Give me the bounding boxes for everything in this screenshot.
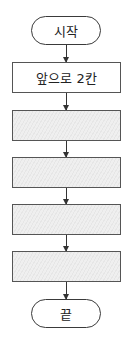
- arrow-down-icon: [66, 45, 67, 62]
- end-terminal: 끝: [31, 299, 101, 328]
- arrow-down-icon: [66, 141, 67, 157]
- arrow-down-icon: [66, 282, 67, 299]
- start-terminal: 시작: [31, 16, 101, 45]
- arrow-down-icon: [66, 93, 67, 110]
- arrow-down-icon: [66, 235, 67, 251]
- end-label: 끝: [60, 304, 72, 323]
- step-box-3-blank: [12, 157, 121, 188]
- step-box-5-blank: [12, 251, 121, 282]
- arrow-down-icon: [66, 188, 67, 204]
- start-label: 시작: [54, 21, 78, 40]
- step-label: 앞으로 2칸: [36, 68, 96, 87]
- step-box-2-blank: [12, 110, 121, 141]
- step-box-4-blank: [12, 204, 121, 235]
- step-box-1: 앞으로 2칸: [12, 62, 121, 93]
